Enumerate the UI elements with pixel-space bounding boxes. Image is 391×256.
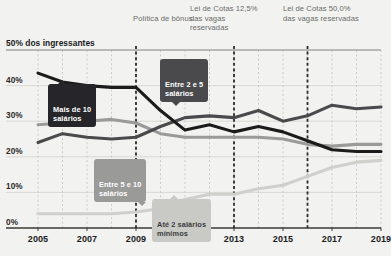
x-axis-label-2015: 2015 (273, 234, 293, 244)
callout-label: Entre 2 e 5 salários (165, 80, 203, 98)
x-axis-label-2019: 2019 (371, 234, 391, 244)
x-axis-label-2013: 2013 (224, 234, 244, 244)
y-axis-label-30: 30% (6, 111, 23, 120)
callout-tail (172, 102, 180, 106)
y-axis-label-0: 0% (6, 218, 18, 227)
callout-label: Até 2 salários mínimos (157, 220, 206, 238)
series-callout-ate-2-salarios-minimos: Até 2 salários mínimos (152, 199, 211, 242)
y-axis-label-20: 20% (6, 147, 23, 156)
series-callout-mais-de-10-salarios: Mais de 10 salários (48, 84, 96, 127)
y-axis-label-40: 40% (6, 76, 23, 85)
x-axis-label-2017: 2017 (322, 234, 342, 244)
callout-label: Entre 5 e 10 salários (99, 180, 141, 198)
x-axis-label-2009: 2009 (126, 234, 146, 244)
series-callout-entre-5-e-10-salarios: Entre 5 e 10 salários (94, 159, 146, 202)
callout-tail (58, 80, 66, 84)
series-callout-entre-2-e-5-salarios: Entre 2 e 5 salários (160, 59, 208, 102)
callout-tail (170, 195, 178, 199)
callout-tail (138, 202, 146, 206)
x-axis-label-2007: 2007 (77, 234, 97, 244)
y-axis-label-10: 10% (6, 182, 23, 191)
x-axis-label-2005: 2005 (28, 234, 48, 244)
callout-label: Mais de 10 salários (53, 105, 91, 123)
